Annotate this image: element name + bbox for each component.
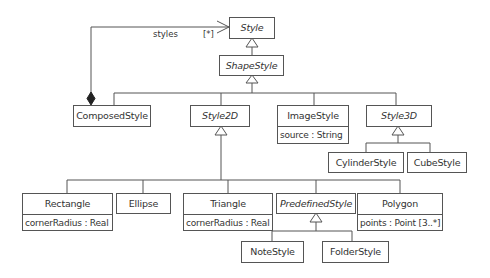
class-name: FolderStyle [323,242,388,262]
class-attribute: points : Point [3..*] [358,214,442,231]
class-name: NoteStyle [242,242,303,262]
class-attribute: cornerRadius : Real [23,214,112,231]
class-image-style[interactable]: ImageStyle source : String [277,105,349,144]
class-name: CubeStyle [408,153,466,173]
class-folder-style[interactable]: FolderStyle [322,241,389,263]
association-multiplicity-label: [*] [203,29,214,39]
class-name: ComposedStyle [74,106,150,126]
class-cube-style[interactable]: CubeStyle [407,152,467,173]
class-composed-style[interactable]: ComposedStyle [73,105,151,127]
association-role-label: styles [153,29,178,39]
uml-class-diagram: styles [*] Style ShapeStyle ComposedStyl… [0,0,490,278]
class-triangle[interactable]: Triangle cornerRadius : Real [183,193,273,231]
class-ellipse[interactable]: Ellipse [116,193,171,214]
class-name: Style2D [191,106,249,126]
class-shape-style[interactable]: ShapeStyle [219,55,284,76]
class-attribute: source : String [278,126,348,143]
class-name: Polygon [358,194,442,214]
connector-lines [0,0,490,278]
class-note-style[interactable]: NoteStyle [241,241,304,263]
class-style2d[interactable]: Style2D [190,105,250,127]
class-name: Style [230,18,274,38]
class-name: ImageStyle [278,106,348,126]
class-rectangle[interactable]: Rectangle cornerRadius : Real [22,193,113,231]
class-cylinder-style[interactable]: CylinderStyle [328,152,404,173]
class-attribute: cornerRadius : Real [184,214,272,231]
class-name: CylinderStyle [329,153,403,173]
class-name: Triangle [184,194,272,214]
class-name: Ellipse [117,194,170,214]
class-name: PredefinedStyle [277,194,355,214]
class-style3d[interactable]: Style3D [366,105,432,127]
class-name: Rectangle [23,194,112,214]
class-style[interactable]: Style [229,17,275,39]
class-predefined-style[interactable]: PredefinedStyle [276,193,356,214]
class-name: ShapeStyle [220,56,283,76]
class-polygon[interactable]: Polygon points : Point [3..*] [357,193,443,231]
class-name: Style3D [367,106,431,126]
